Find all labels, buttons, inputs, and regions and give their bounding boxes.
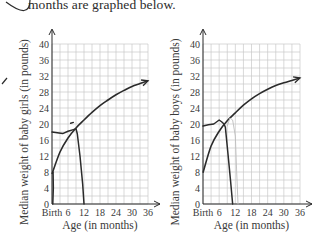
x-tick-label: 30: [127, 207, 137, 218]
y-tick-label: 28: [39, 87, 49, 98]
y-tick-label: 20: [190, 119, 200, 130]
y-tick-label: 36: [190, 55, 200, 66]
y-tick-label: 32: [190, 71, 200, 82]
y-tick-label: 8: [195, 167, 200, 178]
y-tick-label: 12: [39, 151, 49, 162]
y-tick-label: 20: [39, 119, 49, 130]
y-tick-label: 40: [190, 39, 200, 50]
y-tick-label: 28: [190, 87, 200, 98]
x-tick-label: 24: [111, 207, 121, 218]
y-tick-label: 24: [39, 103, 49, 114]
charts-canvas: 0481216202428323640Birth61218243036Age (…: [0, 0, 315, 235]
pen-annotation: [53, 172, 54, 204]
pen-annotation: [71, 122, 74, 123]
hand-drawn-arc: [6, 0, 30, 11]
girls-weight-chart: 0481216202428323640Birth61218243036Age (…: [18, 29, 160, 232]
x-tick-label: 30: [279, 207, 289, 218]
x-tick-label: 6: [217, 207, 222, 218]
y-tick-label: 36: [39, 55, 49, 66]
y-tick-label: 24: [190, 103, 200, 114]
y-axis-label: Median weight of baby girls (in pounds): [18, 39, 31, 225]
boys-weight-chart: 0481216202428323640Birth61218243036Age (…: [169, 29, 312, 232]
x-tick-label: 6: [66, 207, 71, 218]
hand-drawn-tick-mark: [2, 78, 7, 84]
y-tick-label: 12: [190, 151, 200, 162]
x-tick-label: 12: [230, 207, 240, 218]
x-tick-label: 36: [295, 207, 305, 218]
x-tick-label: 18: [95, 207, 105, 218]
x-tick-label: 12: [79, 207, 89, 218]
y-tick-label: 40: [39, 39, 49, 50]
y-tick-label: 4: [44, 183, 49, 194]
y-tick-label: 8: [44, 167, 49, 178]
x-tick-label: Birth: [193, 207, 214, 218]
y-tick-label: 16: [39, 135, 49, 146]
x-tick-label: 18: [247, 207, 257, 218]
x-axis-label: Age (in months): [62, 219, 138, 232]
x-tick-label: 24: [263, 207, 273, 218]
x-tick-label: 36: [143, 207, 153, 218]
y-tick-label: 16: [190, 135, 200, 146]
x-tick-label: Birth: [42, 207, 63, 218]
y-tick-label: 4: [195, 183, 200, 194]
y-tick-label: 32: [39, 71, 49, 82]
y-axis-label: Median weight of baby boys (in pounds): [169, 38, 182, 225]
x-axis-label: Age (in months): [214, 219, 290, 232]
